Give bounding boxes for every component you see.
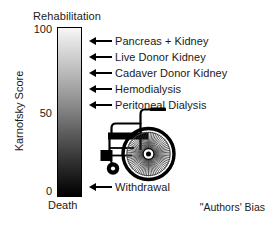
left-arrow-icon bbox=[89, 85, 112, 94]
annotation-label: Pancreas + Kidney bbox=[115, 35, 209, 47]
left-arrow-icon bbox=[89, 69, 112, 78]
left-arrow-icon bbox=[89, 53, 112, 62]
scale-bottom-label: Death bbox=[48, 199, 77, 211]
grayscale-scale-bar bbox=[57, 27, 82, 197]
annotation-row-cadaver-donor-kidney: Cadaver Donor Kidney bbox=[89, 67, 227, 79]
annotation-label: Live Donor Kidney bbox=[115, 51, 206, 63]
axis-tick-0: 0 bbox=[26, 185, 52, 197]
scale-top-label: Rehabilitation bbox=[33, 10, 101, 22]
annotation-row-live-donor-kidney: Live Donor Kidney bbox=[89, 51, 206, 63]
annotation-row-pancreas-kidney: Pancreas + Kidney bbox=[89, 35, 209, 47]
axis-tick-50: 50 bbox=[26, 107, 52, 119]
axis-tick-100: 100 bbox=[26, 23, 52, 35]
karnofsky-score-figure: Rehabilitation Karnofsky Score 100 50 0 … bbox=[0, 0, 274, 232]
authors-bias-credit: "Authors' Bias bbox=[200, 201, 265, 213]
left-arrow-icon bbox=[89, 37, 112, 46]
annotation-label: Hemodialysis bbox=[115, 83, 181, 95]
annotation-label: Cadaver Donor Kidney bbox=[115, 67, 227, 79]
wheelchair-icon bbox=[100, 106, 192, 184]
y-axis-title: Karnofsky Score bbox=[13, 61, 25, 161]
annotation-row-hemodialysis: Hemodialysis bbox=[89, 83, 181, 95]
